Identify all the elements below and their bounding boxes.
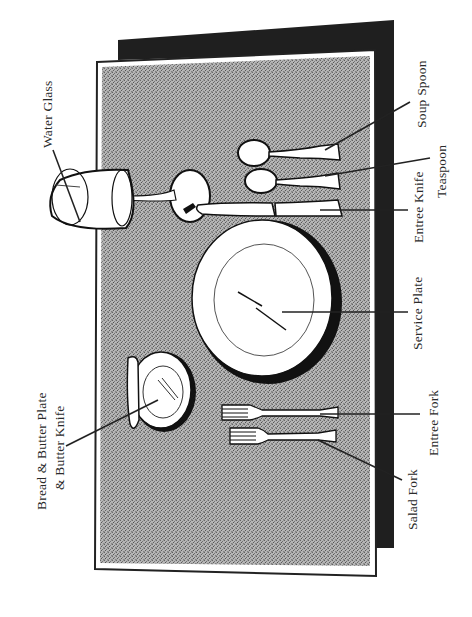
label-soup-spoon: Soup Spoon <box>414 60 430 128</box>
diagram-canvas <box>0 0 472 617</box>
label-entree-knife: Entree Knife <box>411 171 427 243</box>
label-teaspoon: Teaspoon <box>434 145 450 198</box>
label-entree-fork: Entree Fork <box>426 390 442 456</box>
label-service-plate: Service Plate <box>410 277 426 350</box>
label-water-glass: Water Glass <box>40 81 56 148</box>
butter-knife <box>127 357 139 429</box>
table-setting-diagram: Water Glass Soup Spoon Teaspoon Entree K… <box>0 0 472 617</box>
label-salad-fork: Salad Fork <box>405 469 421 530</box>
water-glass <box>50 169 210 229</box>
label-bread-butter-line1: Bread & Butter Plate <box>34 392 50 510</box>
label-bread-butter-line2: & Butter Knife <box>52 405 68 490</box>
